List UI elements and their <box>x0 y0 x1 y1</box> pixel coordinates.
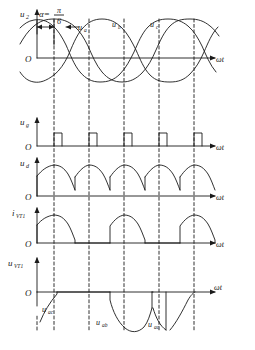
ud-waveform <box>37 165 215 196</box>
waveform-figure: u 2 α= π 6 u a u b u c O ωt u g O ωt u d… <box>0 0 255 350</box>
panel-uvt1-axes <box>37 258 215 292</box>
waveform-svg: u 2 α= π 6 u a u b u c O ωt u g O ωt u d… <box>0 0 255 350</box>
xlabel-ivt1: ωt <box>216 240 225 249</box>
alpha-numerator: π <box>57 6 62 15</box>
ivt1-waveform <box>37 215 215 243</box>
label-ub: u <box>112 20 116 29</box>
origin-ivt1: O <box>25 239 32 249</box>
label-uab: u <box>96 318 100 327</box>
xlabel-ug: ωt <box>216 143 225 152</box>
panel-uvt1-ysub: VT1 <box>14 263 23 269</box>
panel-ug-ylabel: u <box>20 117 25 127</box>
xlabel-ud: ωt <box>216 193 225 202</box>
label-ua: u <box>78 23 82 32</box>
gate-pulse-train <box>54 133 202 146</box>
panel-ivt1-ysub: VT1 <box>16 213 25 219</box>
panel-u2-axes <box>37 10 215 58</box>
label-uac-left-sub: ac <box>48 309 54 315</box>
label-uac-sub: ac <box>154 324 160 330</box>
uvt1-waveform <box>37 292 195 332</box>
label-uab-sub: ab <box>102 322 108 328</box>
panel-ud-axes <box>37 158 215 196</box>
origin-u2: O <box>25 54 32 64</box>
panel-ud-ysub: d <box>26 163 30 169</box>
label-uac: u <box>148 320 152 329</box>
figure-labels: u 2 α= π 6 u a u b u c O ωt u g O ωt u d… <box>8 6 225 330</box>
alpha-label: α= <box>39 9 50 19</box>
panel-ivt1-axes <box>37 208 215 243</box>
xlabel-u2: ωt <box>216 55 225 64</box>
label-ua-sub: a <box>84 27 87 33</box>
panel-ivt1-ylabel: i <box>12 208 15 218</box>
panel-u2-ysub: 2 <box>26 14 29 20</box>
origin-uvt1: O <box>25 288 32 298</box>
panel-ug-axes <box>37 118 215 146</box>
origin-ud: O <box>25 192 32 202</box>
panel-uvt1-ylabel: u <box>8 258 13 268</box>
alpha-measure <box>37 20 54 45</box>
label-uac-left: u <box>42 305 46 314</box>
panel-u2-ylabel: u <box>20 9 25 19</box>
panel-ud-ylabel: u <box>20 158 25 168</box>
panel-ug-ysub: g <box>26 122 29 128</box>
label-ub-sub: b <box>118 24 121 30</box>
label-uc: u <box>150 20 154 29</box>
alpha-denominator: 6 <box>57 17 61 26</box>
origin-ug: O <box>25 142 32 152</box>
xlabel-uvt1: ωt <box>214 283 223 292</box>
